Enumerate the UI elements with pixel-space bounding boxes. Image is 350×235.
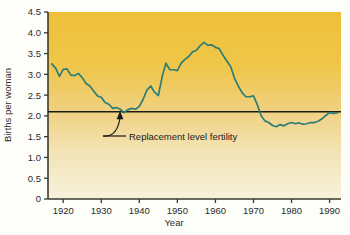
- x-axis-title: Year: [164, 217, 183, 228]
- x-tick-label: 1930: [91, 205, 112, 216]
- y-tick-label: 2.0: [28, 110, 41, 121]
- x-tick-label: 1950: [167, 205, 188, 216]
- plot-area-background: [48, 12, 341, 199]
- x-tick-label: 1940: [129, 205, 150, 216]
- x-tick-label: 1920: [53, 205, 74, 216]
- x-tick-label: 1990: [319, 205, 340, 216]
- y-tick-label: 3.0: [28, 69, 41, 80]
- fertility-line-chart: 00.51.01.52.02.53.03.54.04.5 19201930194…: [0, 0, 350, 235]
- y-tick-label: 4.0: [28, 27, 41, 38]
- y-tick-label: 1.5: [28, 131, 41, 142]
- y-axis-title: Births per woman: [2, 68, 13, 142]
- y-tick-label: 0.5: [28, 173, 41, 184]
- y-tick-label: 3.5: [28, 48, 41, 59]
- chart-figure: 00.51.01.52.02.53.03.54.04.5 19201930194…: [0, 0, 350, 235]
- x-tick-label: 1960: [205, 205, 226, 216]
- y-tick-label: 2.5: [28, 90, 41, 101]
- y-tick-label: 0: [36, 193, 41, 204]
- y-tick-label: 1.0: [28, 152, 41, 163]
- x-tick-label: 1970: [243, 205, 264, 216]
- y-tick-label: 4.5: [28, 6, 41, 17]
- x-tick-label: 1980: [281, 205, 302, 216]
- replacement-level-label: Replacement level fertility: [129, 131, 237, 142]
